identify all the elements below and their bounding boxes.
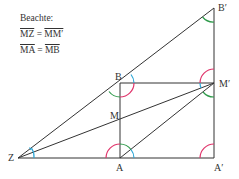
label-Z: Z bbox=[8, 152, 14, 163]
label-Aprime: A′ bbox=[214, 162, 223, 173]
label-A: A bbox=[116, 162, 123, 173]
angle-Aprime-icon bbox=[200, 144, 214, 158]
angle-Mprime-red-icon bbox=[200, 69, 214, 83]
label-Mprime: M′ bbox=[219, 78, 230, 89]
angle-A-blue-icon bbox=[131, 150, 134, 159]
angle-A-red-icon bbox=[106, 144, 120, 158]
angle-B-blue-icon bbox=[131, 75, 134, 84]
angle-B-red-icon bbox=[120, 83, 134, 97]
label-B: B bbox=[115, 71, 122, 82]
geometry-diagram bbox=[0, 0, 239, 179]
angle-Mprime-green-icon bbox=[203, 92, 214, 97]
angle-Bprime-icon bbox=[203, 17, 215, 22]
angle-B-green-icon bbox=[109, 92, 120, 98]
line-A-Mprime bbox=[120, 83, 214, 158]
angle-Mprime-blue-icon bbox=[200, 83, 201, 88]
label-Bprime: B′ bbox=[218, 2, 227, 13]
label-M: M bbox=[110, 110, 119, 121]
angle-A-green-icon bbox=[120, 144, 131, 150]
